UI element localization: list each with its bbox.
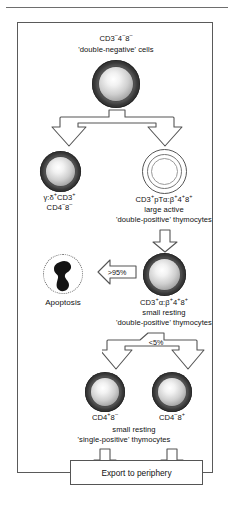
label-cd8-single-positive: CD4–8+ <box>142 414 202 423</box>
label-single-positive-line1: small resting <box>56 426 212 435</box>
cell-cd4-single-positive <box>85 372 125 412</box>
cell-nucleus <box>46 157 75 186</box>
label-small-resting-dp-line1: CD3+α:β+4+8+ <box>94 299 233 308</box>
label-small-resting-dp-line3: 'double-positive' thymocytes <box>86 319 233 328</box>
cell-small-resting-double-positive <box>143 253 186 296</box>
label-large-active-line3: 'double-positive' thymocytes <box>86 216 233 225</box>
label-large-active-line1: CD3+pTα:β+4+8+ <box>94 196 233 205</box>
cell-double-negative <box>92 60 140 108</box>
label-double-negative-marker: CD3–4–8– <box>18 35 214 44</box>
figure-panel: CD3–4–8– 'double-negative' cells γ:δ+CD3… <box>17 22 213 473</box>
figure-root: CD3–4–8– 'double-negative' cells γ:δ+CD3… <box>0 0 233 505</box>
label-single-positive-line2: 'single-positive' thymocytes <box>38 436 210 445</box>
split-down-arrow-icon <box>37 108 197 148</box>
label-gamma-delta-line2: CD4–8– <box>12 204 107 213</box>
label-maturation-fraction: <5% <box>128 338 184 347</box>
label-gamma-delta-line1: γ:δ+CD3+ <box>12 194 107 203</box>
top-divider-rule <box>6 7 228 8</box>
label-apoptosis: Apoptosis <box>31 298 95 307</box>
export-to-periphery-box: Export to periphery <box>70 460 203 485</box>
cell-cd8-single-positive <box>152 372 192 412</box>
label-cd4-single-positive: CD4+8– <box>75 414 135 423</box>
cell-apoptotic <box>43 254 83 294</box>
label-double-negative-desc: 'double-negative' cells <box>18 46 214 55</box>
cell-large-active-double-positive <box>142 149 187 194</box>
split-down-arrow-icon <box>102 331 210 371</box>
label-small-resting-dp-line2: small resting <box>94 309 233 318</box>
cell-nucleus-outline <box>151 158 178 185</box>
export-to-periphery-label: Export to periphery <box>101 468 171 478</box>
down-arrow-icon <box>150 228 180 254</box>
cell-nucleus <box>149 259 180 290</box>
label-apoptosis-fraction: >95% <box>98 268 136 277</box>
label-large-active-line2: large active <box>94 206 233 215</box>
cell-nucleus <box>158 378 186 406</box>
cell-gamma-delta <box>40 151 81 192</box>
cell-nucleus <box>91 378 119 406</box>
cell-nucleus <box>99 67 133 101</box>
